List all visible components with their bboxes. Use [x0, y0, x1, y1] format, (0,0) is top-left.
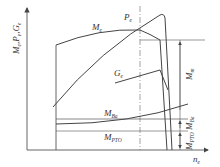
- power-curve: [53, 14, 172, 150]
- pto-label: MPTO: [103, 132, 122, 143]
- svg-text:Me,Pe,Ge: Me,Pe,Ge: [11, 22, 22, 55]
- svg-text:MBa: MBa: [184, 116, 195, 131]
- torque-curve: [56, 30, 167, 150]
- ba-dim-label: MBa: [184, 116, 195, 131]
- fuel-label: Ge: [114, 68, 124, 79]
- svg-text:MPTO: MPTO: [184, 132, 195, 151]
- aux-torque-label: MBa: [103, 108, 118, 119]
- x-axis-label: ne: [193, 154, 201, 165]
- engine-characteristic-diagram: Me,Pe,Ge ne Me Pe Ge MBa MPTO Mm MBa MPT…: [0, 0, 220, 167]
- svg-text:Mm: Mm: [184, 69, 195, 82]
- y-axis-label: Me,Pe,Ge: [11, 22, 22, 55]
- reserve-dim-label: Mm: [184, 69, 195, 82]
- torque-label: Me: [91, 22, 103, 33]
- aux-torque-curve: [56, 104, 188, 124]
- power-label: Pe: [123, 12, 133, 23]
- pto-dim-label: MPTO: [184, 132, 195, 151]
